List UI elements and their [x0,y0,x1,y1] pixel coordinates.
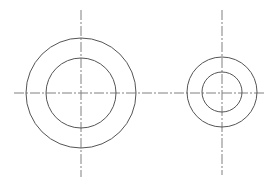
technical-drawing-canvas [0,0,280,188]
